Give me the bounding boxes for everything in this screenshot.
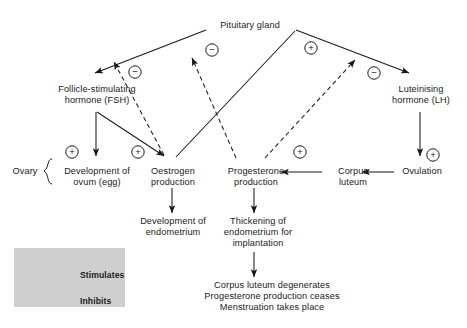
edge-oestrogen-inhibits-pituitary bbox=[192, 58, 236, 158]
node-pituitary-gland: Pituitary gland bbox=[200, 20, 300, 31]
diagram-canvas: −−+−++++ +− Pituitary gland Follicle-sti… bbox=[0, 0, 467, 328]
edge-progesterone-inhibits-lh bbox=[265, 60, 355, 158]
minus-fsh-branch-marker: − bbox=[128, 65, 141, 78]
plus-ovulation-marker: + bbox=[426, 148, 439, 161]
node-lh: Luteinising hormone (LH) bbox=[378, 84, 464, 106]
minus-pituitary-fsh-inner-marker: − bbox=[205, 43, 218, 56]
plus-progesterone-marker: + bbox=[293, 145, 306, 158]
edge-oestrogen-to-pituitary-stimulates bbox=[176, 31, 295, 157]
node-development-of-ovum: Development of ovum (egg) bbox=[53, 166, 141, 188]
edge-pituitary-to-fsh bbox=[95, 30, 206, 73]
svg-text:−: − bbox=[209, 44, 215, 55]
svg-text:+: + bbox=[430, 149, 436, 160]
svg-text:−: − bbox=[371, 67, 377, 78]
plus-pituitary-lh-marker: + bbox=[304, 41, 317, 54]
legend-inhibits-label: Inhibits bbox=[80, 296, 111, 306]
svg-text:−: − bbox=[132, 66, 138, 77]
node-progesterone-production: Progesterone production bbox=[210, 166, 302, 188]
node-ovary: Ovary bbox=[4, 166, 46, 177]
svg-text:+: + bbox=[308, 42, 314, 53]
node-cycle-outcome: Corpus luteum degenerates Progesterone p… bbox=[162, 280, 382, 314]
node-ovulation: Ovulation bbox=[390, 166, 454, 177]
node-development-of-endometrium: Development of endometrium bbox=[126, 216, 220, 238]
node-corpus-luteum: Corpus luteum bbox=[322, 166, 384, 188]
minus-lh-branch-marker: − bbox=[367, 66, 380, 79]
node-fsh: Follicle-stimulating hormone (FSH) bbox=[38, 84, 156, 106]
edge-fsh-to-oestrogen bbox=[97, 112, 164, 156]
svg-text:+: + bbox=[69, 146, 75, 157]
node-oestrogen-production: Oestrogen production bbox=[136, 166, 210, 188]
plus-ovum-marker: + bbox=[65, 145, 78, 158]
legend-stimulates-label: Stimulates bbox=[80, 270, 124, 280]
node-thickening-of-endometrium: Thickening of endometrium for implantati… bbox=[212, 216, 304, 250]
svg-text:+: + bbox=[297, 146, 303, 157]
svg-text:+: + bbox=[135, 146, 141, 157]
plus-oestrogen-marker: + bbox=[131, 145, 144, 158]
